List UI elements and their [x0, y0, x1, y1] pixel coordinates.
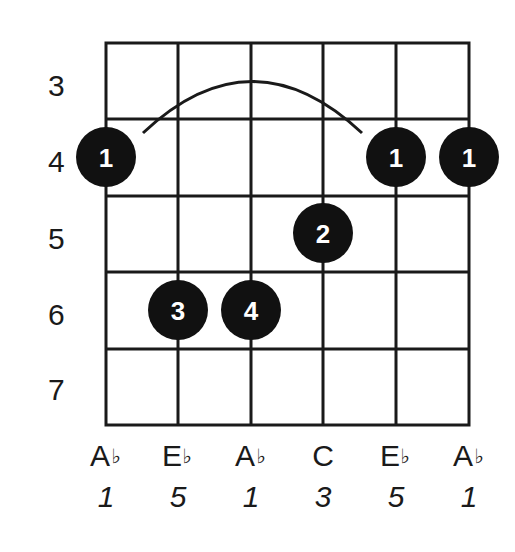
note-label: A ♭	[453, 439, 484, 472]
note-label: A ♭	[90, 439, 121, 472]
intervals: 1 5 1 3 5 1	[98, 480, 478, 513]
finger-dot: 4	[221, 280, 281, 340]
svg-text:E: E	[380, 439, 400, 472]
finger-dot: 1	[439, 127, 499, 187]
interval-label: 3	[315, 480, 332, 513]
finger-dot: 1	[366, 127, 426, 187]
svg-text:2: 2	[316, 219, 330, 249]
finger-dot: 1	[76, 127, 136, 187]
fretboard-grid	[106, 43, 469, 425]
finger-dot: 3	[148, 280, 208, 340]
interval-label: 1	[461, 480, 478, 513]
svg-text:♭: ♭	[400, 444, 409, 468]
note-label: C	[312, 439, 334, 472]
note-label: A ♭	[235, 439, 266, 472]
svg-text:1: 1	[389, 143, 403, 173]
interval-label: 5	[388, 480, 405, 513]
fretboard-border	[106, 43, 469, 425]
fret-numbers: 3 4 5 6 7	[48, 69, 65, 406]
svg-text:1: 1	[462, 143, 476, 173]
interval-label: 5	[170, 480, 187, 513]
fret-number: 5	[48, 222, 65, 255]
fret-number: 6	[48, 298, 65, 331]
svg-text:A: A	[90, 439, 110, 472]
svg-text:A: A	[235, 439, 255, 472]
note-label: E ♭	[162, 439, 192, 472]
finger-dots: 1 3 4 2 1 1	[76, 127, 499, 340]
svg-text:♭: ♭	[256, 444, 265, 468]
svg-text:3: 3	[171, 296, 185, 326]
svg-text:4: 4	[244, 296, 259, 326]
fret-number: 4	[48, 145, 65, 178]
finger-dot: 2	[293, 203, 353, 263]
fret-number: 7	[48, 373, 65, 406]
svg-text:1: 1	[99, 143, 113, 173]
svg-text:C: C	[312, 439, 334, 472]
note-names: A ♭ E ♭ A ♭ C E ♭ A ♭	[90, 439, 484, 472]
chord-diagram: 3 4 5 6 7 1 3 4 2 1 1	[0, 0, 515, 552]
interval-label: 1	[98, 480, 115, 513]
svg-text:E: E	[162, 439, 182, 472]
interval-label: 1	[243, 480, 260, 513]
svg-text:♭: ♭	[474, 444, 483, 468]
svg-text:A: A	[453, 439, 473, 472]
note-label: E ♭	[380, 439, 410, 472]
svg-text:♭: ♭	[111, 444, 120, 468]
svg-text:♭: ♭	[182, 444, 191, 468]
fret-number: 3	[48, 69, 65, 102]
